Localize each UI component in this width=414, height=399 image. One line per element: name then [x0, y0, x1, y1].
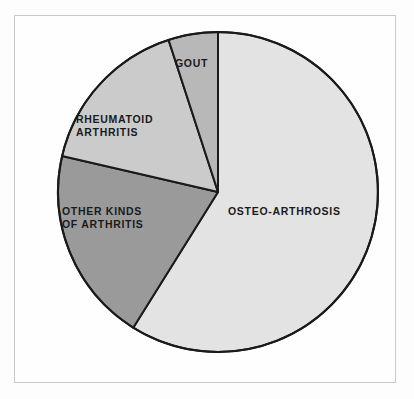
slice-label-gout-text: GOUT	[175, 57, 208, 69]
slice-label-gout: GOUT	[175, 57, 208, 70]
slice-label-rheumatoid-line1: RHEUMATOID	[76, 113, 153, 125]
pie-slice-group	[58, 32, 378, 352]
slice-label-other-line2: OF ARTHRITIS	[62, 218, 144, 230]
slice-label-other-kinds-of-arthritis: OTHER KINDSOF ARTHRITIS	[62, 205, 144, 231]
slice-label-other-line1: OTHER KINDS	[62, 205, 142, 217]
page-background: OSTEO-ARTHROSIS GOUT RHEUMATOIDARTHRITIS…	[0, 0, 414, 399]
slice-label-osteo-arthrosis: OSTEO-ARTHROSIS	[228, 205, 341, 218]
pie-chart: OSTEO-ARTHROSIS GOUT RHEUMATOIDARTHRITIS…	[0, 0, 414, 399]
slice-label-rheumatoid-line2: ARTHRITIS	[76, 126, 138, 138]
slice-label-osteo-text: OSTEO-ARTHROSIS	[228, 205, 341, 217]
slice-label-rheumatoid-arthritis: RHEUMATOIDARTHRITIS	[76, 113, 153, 139]
